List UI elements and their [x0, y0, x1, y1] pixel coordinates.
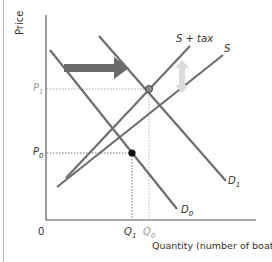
initial-equilibrium-point: [128, 149, 135, 156]
supply-label: S: [224, 43, 230, 54]
p1-tick-label: P1: [33, 82, 44, 96]
demand-curve-d0: [50, 50, 177, 209]
tax-wedge-arrow-icon: [175, 60, 189, 93]
new-equilibrium-point: [145, 85, 152, 92]
d1-label: D1: [228, 175, 240, 189]
origin-label: 0: [38, 226, 44, 237]
q1-tick-label: Q1: [124, 226, 136, 240]
q0-tick-label: Q0: [143, 226, 155, 240]
supply-curve-s: [57, 55, 223, 187]
p0-tick-label: P0: [33, 146, 44, 160]
d0-label: D0: [181, 204, 193, 218]
x-axis-label: Quantity (number of boats): [152, 240, 272, 251]
chart-plot: [0, 0, 272, 262]
y-axis-label: Price: [14, 11, 25, 35]
demand-curve-d1: [99, 36, 226, 181]
supply-tax-label: S + tax: [176, 33, 213, 44]
